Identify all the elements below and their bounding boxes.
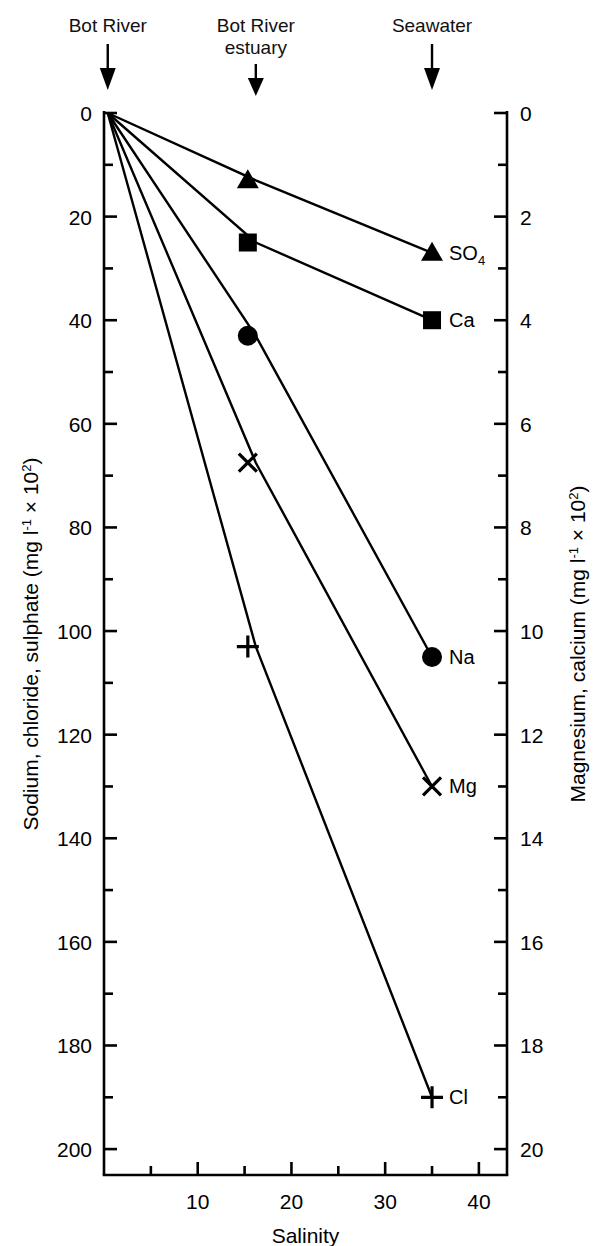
series-label-Ca: Ca (449, 309, 475, 331)
y-tick-label-right: 4 (520, 309, 532, 332)
marker-Na-estuary (238, 326, 258, 346)
y-tick-label-left: 80 (69, 516, 92, 539)
y-tick-label-left: 180 (57, 1034, 92, 1057)
marker-Ca-seawater (423, 311, 441, 329)
y-tick-label-left: 0 (80, 102, 92, 125)
marker-Na-seawater (422, 647, 442, 667)
annotation-label: Bot River (69, 15, 148, 36)
y-tick-label-left: 200 (57, 1138, 92, 1161)
marker-Ca-estuary (239, 234, 257, 252)
y-tick-label-right: 0 (520, 102, 532, 125)
x-tick-label: 40 (467, 1190, 490, 1213)
y-tick-label-left: 60 (69, 413, 92, 436)
y-tick-label-left: 40 (69, 309, 92, 332)
series-label-Na: Na (449, 646, 475, 668)
y-tick-label-right: 8 (520, 516, 532, 539)
y-tick-label-right: 18 (520, 1034, 543, 1057)
series-label-Mg: Mg (449, 775, 477, 797)
x-axis-title: Salinity (272, 1224, 340, 1246)
annotation-label: Seawater (392, 15, 473, 36)
y-tick-label-left: 20 (69, 206, 92, 229)
y-tick-label-left: 120 (57, 724, 92, 747)
x-tick-label: 10 (186, 1190, 209, 1213)
y-tick-label-right: 6 (520, 413, 532, 436)
annotation-label: estuary (225, 37, 288, 58)
chart-figure: Bot RiverBot RiverestuarySeawater 020406… (0, 0, 611, 1246)
y-tick-label-right: 10 (520, 620, 543, 643)
annotation-label: Bot River (217, 15, 296, 36)
y-tick-label-right: 12 (520, 724, 543, 747)
series-label-Cl: Cl (449, 1086, 468, 1108)
y-tick-label-right: 2 (520, 206, 532, 229)
x-tick-label: 30 (373, 1190, 396, 1213)
chart-canvas: Bot RiverBot RiverestuarySeawater 020406… (0, 0, 611, 1246)
y-axis-title-left: Sodium, chloride, sulphate (mg l-1 × 102… (19, 457, 42, 830)
y-tick-label-left: 100 (57, 620, 92, 643)
x-tick-label: 20 (280, 1190, 303, 1213)
y-axis-title-right: Magnesium, calcium (mg l-1 × 102) (566, 486, 589, 803)
y-tick-label-right: 20 (520, 1138, 543, 1161)
y-tick-label-left: 140 (57, 827, 92, 850)
y-tick-label-right: 16 (520, 931, 543, 954)
series-label-subscript: 4 (478, 253, 485, 268)
y-tick-label-left: 160 (57, 931, 92, 954)
y-tick-label-right: 14 (520, 827, 544, 850)
